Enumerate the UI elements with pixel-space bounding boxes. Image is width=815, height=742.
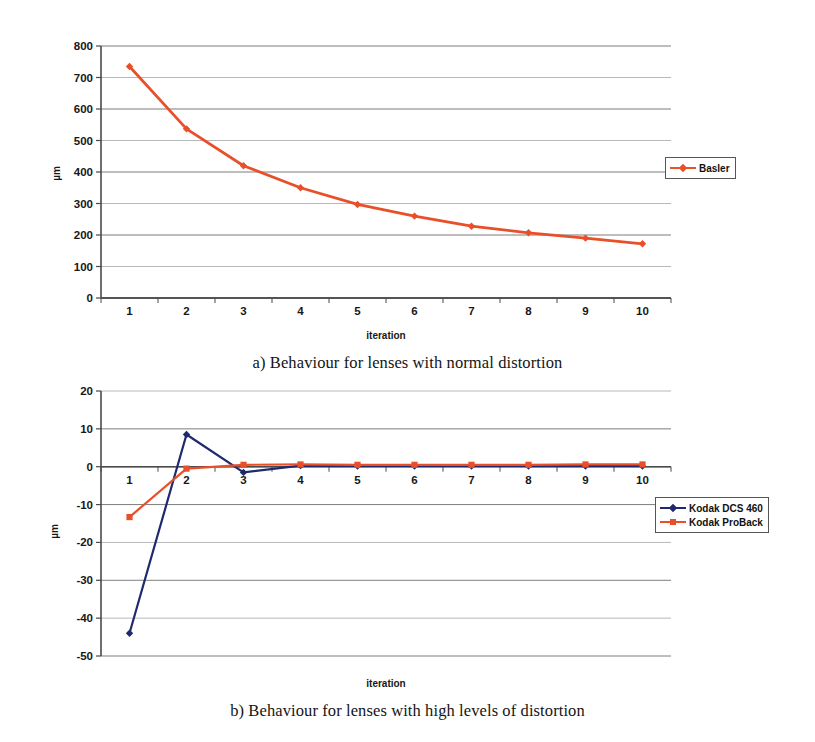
y-axis-tick-label: -30 <box>49 574 93 586</box>
figure-a: 010020030040050060070080012345678910iter… <box>0 0 815 371</box>
data-point <box>411 212 418 219</box>
data-point <box>639 240 646 247</box>
chart-legend[interactable]: Basler <box>665 157 736 179</box>
y-axis-tick-label: -10 <box>49 499 93 511</box>
legend-swatch-diamond-icon <box>670 163 696 173</box>
legend-item[interactable]: Kodak ProBack <box>660 515 763 529</box>
y-axis-tick-label: 0 <box>49 461 93 473</box>
x-axis-tick-label: 4 <box>297 305 303 317</box>
y-axis-tick-label: 700 <box>49 72 93 84</box>
y-axis-tick-label: -50 <box>49 650 93 662</box>
legend-item[interactable]: Kodak DCS 460 <box>660 501 763 515</box>
y-axis-tick-label: 200 <box>49 229 93 241</box>
x-axis-tick-label: 8 <box>525 305 531 317</box>
data-point <box>582 461 588 467</box>
legend-item[interactable]: Basler <box>670 161 730 175</box>
x-axis-tick-label: 1 <box>126 305 132 317</box>
chart-b-plot-area: -50-40-30-20-100102012345678910iteration… <box>0 371 815 701</box>
legend-swatch-square-icon <box>660 517 686 527</box>
data-point <box>240 462 246 468</box>
y-axis-tick-label: 10 <box>49 423 93 435</box>
data-point <box>525 462 531 468</box>
chart-a-plot-area: 010020030040050060070080012345678910iter… <box>0 0 815 350</box>
legend-label: Kodak DCS 460 <box>689 503 763 514</box>
x-axis-tick-label: 10 <box>636 474 649 486</box>
y-axis-title: µm <box>49 524 60 539</box>
figure-b-caption: b) Behaviour for lenses with high levels… <box>0 701 815 721</box>
data-point <box>468 222 475 229</box>
y-axis-tick-label: 20 <box>49 385 93 397</box>
data-point <box>126 514 132 520</box>
data-point <box>639 461 645 467</box>
figure-b: -50-40-30-20-100102012345678910iteration… <box>0 371 815 742</box>
data-point <box>354 201 361 208</box>
data-point <box>411 462 417 468</box>
x-axis-tick-label: 1 <box>126 474 132 486</box>
data-point <box>354 462 360 468</box>
x-axis-tick-label: 7 <box>468 474 474 486</box>
figure-a-caption: a) Behaviour for lenses with normal dist… <box>0 353 815 373</box>
x-axis-tick-label: 10 <box>636 305 649 317</box>
y-axis-title: µm <box>51 166 62 181</box>
x-axis-tick-label: 4 <box>297 474 303 486</box>
x-axis-tick-label: 2 <box>183 305 189 317</box>
x-axis-tick-label: 7 <box>468 305 474 317</box>
x-axis-tick-label: 3 <box>240 474 246 486</box>
data-point <box>582 234 589 241</box>
y-axis-tick-label: 0 <box>49 292 93 304</box>
legend-label: Kodak ProBack <box>689 517 763 528</box>
series-line-kodak-proback <box>130 464 643 517</box>
y-axis-tick-label: 300 <box>49 198 93 210</box>
y-axis-tick-label: 600 <box>49 103 93 115</box>
x-axis-tick-label: 3 <box>240 305 246 317</box>
y-axis-tick-label: 100 <box>49 261 93 273</box>
data-point <box>297 184 304 191</box>
x-axis-tick-label: 2 <box>183 474 189 486</box>
x-axis-tick-label: 8 <box>525 474 531 486</box>
data-point <box>126 630 133 637</box>
x-axis-tick-label: 5 <box>354 474 360 486</box>
x-axis-tick-label: 9 <box>582 305 588 317</box>
series-line-basler <box>130 66 643 243</box>
x-axis-tick-label: 6 <box>411 474 417 486</box>
data-point <box>468 462 474 468</box>
legend-label: Basler <box>699 163 730 174</box>
x-axis-tick-label: 6 <box>411 305 417 317</box>
y-axis-tick-label: 500 <box>49 135 93 147</box>
data-point <box>183 466 189 472</box>
y-axis-tick-label: -40 <box>49 612 93 624</box>
x-axis-tick-label: 9 <box>582 474 588 486</box>
x-axis-title: iteration <box>366 678 405 689</box>
chart-b-svg <box>0 371 815 701</box>
chart-legend[interactable]: Kodak DCS 460Kodak ProBack <box>655 497 769 533</box>
x-axis-tick-label: 5 <box>354 305 360 317</box>
y-axis-tick-label: 800 <box>49 40 93 52</box>
x-axis-title: iteration <box>366 330 405 341</box>
data-point <box>297 461 303 467</box>
legend-swatch-diamond-icon <box>660 503 686 513</box>
figure-page: 010020030040050060070080012345678910iter… <box>0 0 815 742</box>
